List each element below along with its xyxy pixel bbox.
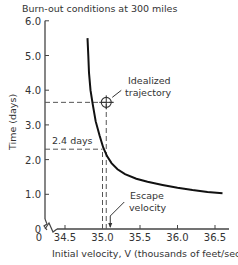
x-tick-label: 35.5 <box>129 232 151 243</box>
chart: Burn-out conditions at 300 miles 01.02.0… <box>0 0 238 265</box>
axes: 01.02.03.04.05.06.034.535.035.536.036.50 <box>25 16 229 243</box>
data-curve <box>88 38 223 193</box>
x-origin-label: 0 <box>36 232 42 243</box>
y-tick-label: 6.0 <box>25 16 41 27</box>
y-tick-label: 3.0 <box>25 120 41 131</box>
y-tick-label: 2.0 <box>25 155 41 166</box>
x-tick-label: 36.0 <box>166 232 188 243</box>
x-tick-label: 36.5 <box>204 232 226 243</box>
annotation-idealized: Idealized <box>128 75 171 86</box>
chart-title: Burn-out conditions at 300 miles <box>22 3 177 14</box>
annotation-trajectory: trajectory <box>125 87 172 98</box>
x-tick-label: 34.5 <box>54 232 76 243</box>
y-tick-label: 5.0 <box>25 51 41 62</box>
x-axis-label: Initial velocity, V (thousands of feet/s… <box>52 248 238 259</box>
y-axis-label: Time (days) <box>7 94 18 151</box>
x-tick-label: 35.0 <box>91 232 113 243</box>
annotation-escape: Escape <box>130 190 164 201</box>
annotation-2-4-days: 2.4 days <box>52 135 93 146</box>
y-tick-label: 1.0 <box>25 189 41 200</box>
annotations: Idealizedtrajectory2.4 daysEscapevelocit… <box>52 75 172 228</box>
escape-arrow-icon <box>108 223 112 228</box>
y-tick-label: 4.0 <box>25 85 41 96</box>
annotation-velocity: velocity <box>129 202 167 213</box>
reference-lines <box>45 102 114 229</box>
